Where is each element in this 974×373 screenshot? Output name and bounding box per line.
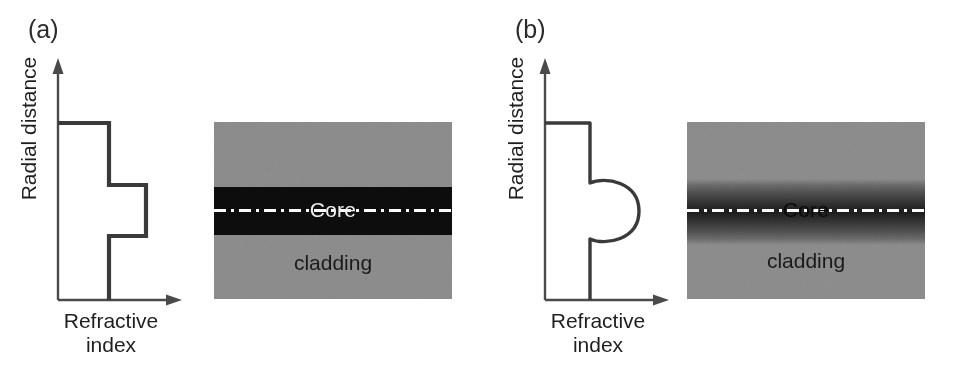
panel-a-fiber-cross-section: Core cladding [214, 122, 452, 299]
figure-container: (a) Radial distance Refractive in [0, 0, 974, 373]
panel-b: (b) Radial distance Refractive in [487, 0, 974, 373]
panel-b-x-axis-label-line1: Refractive [523, 309, 673, 333]
panel-b-index-profile-plot: Radial distance Refractive index [487, 0, 697, 373]
panel-a-y-axis-label: Radial distance [18, 39, 39, 219]
panel-b-x-axis-label-line2: index [523, 333, 673, 357]
panel-a-x-axis [58, 295, 182, 306]
panel-a-x-axis-label: Refractive index [36, 309, 186, 356]
panel-b-fiber-cross-section: Core cladding [687, 122, 925, 299]
panel-a: (a) Radial distance Refractive in [0, 0, 487, 373]
panel-b-cladding-label: cladding [687, 250, 925, 271]
panel-a-core-label: Core [214, 199, 452, 220]
panel-b-x-axis-label: Refractive index [523, 309, 673, 356]
panel-b-core-label: Core [687, 199, 925, 220]
panel-a-x-axis-label-line2: index [36, 333, 186, 357]
panel-b-profile-curve [545, 123, 639, 300]
panel-a-cladding-label: cladding [214, 252, 452, 273]
panel-a-index-profile-plot: Radial distance Refractive index [0, 0, 210, 373]
panel-b-y-axis-label: Radial distance [505, 39, 526, 219]
panel-a-profile-curve [58, 123, 146, 300]
panel-b-y-axis [540, 58, 551, 300]
panel-b-x-axis [545, 295, 669, 306]
panel-a-y-axis [53, 58, 64, 300]
panel-a-x-axis-label-line1: Refractive [36, 309, 186, 333]
